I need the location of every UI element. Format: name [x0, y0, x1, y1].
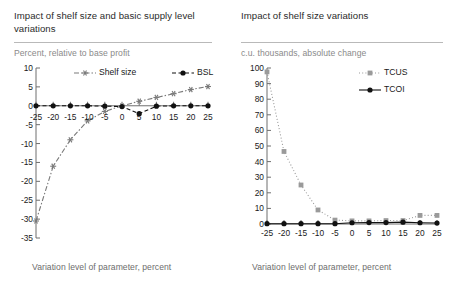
panel-right-title: Impact of shelf size variations	[241, 10, 446, 23]
chart-right-canvas	[243, 66, 443, 246]
y-tick-label: 90	[234, 79, 264, 89]
y-tick-label: -30	[3, 214, 33, 224]
chart-right-x-axis-caption: Variation level of parameter, percent	[252, 262, 391, 272]
chart-right: 1009080706050403020100 -25-20-15-10-5051…	[243, 66, 443, 246]
y-tick-label: 60	[234, 125, 264, 135]
y-tick-label: 80	[234, 94, 264, 104]
y-tick-label: 10	[3, 63, 33, 73]
x-tick-label: 25	[194, 112, 222, 122]
y-tick-label: 100	[234, 63, 264, 73]
legend-label: BSL	[197, 67, 213, 77]
panel-left-subtitle: Percent, relative to base profit	[14, 48, 130, 58]
legend-label: TCOI	[384, 84, 405, 94]
y-tick-label: 50	[234, 141, 264, 151]
legend-label: TCUS	[384, 67, 407, 77]
chart-left-canvas	[14, 66, 214, 246]
legend-label: Shelf size	[99, 67, 136, 77]
y-tick-label: 20	[234, 188, 264, 198]
y-tick-label: 0	[3, 101, 33, 111]
y-tick-label: 70	[234, 110, 264, 120]
panel-left: Impact of shelf size and basic supply le…	[0, 0, 226, 289]
legend-marker-circle-icon	[172, 68, 194, 78]
y-tick-label: -25	[3, 195, 33, 205]
y-tick-label: 40	[234, 157, 264, 167]
panel-right: Impact of shelf size variations c.u. tho…	[227, 0, 453, 289]
panel-right-subtitle: c.u. thousands, absolute change	[241, 48, 366, 58]
panel-left-title: Impact of shelf size and basic supply le…	[14, 10, 214, 35]
legend-marker-square-icon	[359, 68, 381, 78]
y-tick-label: -35	[3, 233, 33, 243]
chart-left: 1050-5-10-15-20-25-30-35 -25-20-15-10-50…	[14, 66, 214, 246]
y-tick-label: -20	[3, 176, 33, 186]
chart-left-x-axis-caption: Variation level of parameter, percent	[32, 262, 171, 272]
legend-marker-circle-icon	[359, 85, 381, 95]
y-tick-label: 30	[234, 172, 264, 182]
panel-right-divider	[241, 42, 443, 43]
y-tick-label: -10	[3, 139, 33, 149]
y-tick-label: 10	[234, 203, 264, 213]
y-tick-label: -15	[3, 157, 33, 167]
panel-left-divider	[14, 42, 212, 43]
y-tick-label: 5	[3, 82, 33, 92]
legend-marker-star-icon	[74, 68, 96, 78]
x-tick-label: 25	[423, 228, 451, 238]
figure-root: Impact of shelf size and basic supply le…	[0, 0, 453, 289]
